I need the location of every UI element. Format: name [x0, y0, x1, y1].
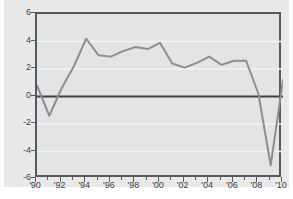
y-axis-tick-label: 6 [26, 8, 31, 17]
y-axis-tick-label: 2 [26, 63, 31, 72]
x-axis-tick-label: '02 [177, 181, 189, 190]
x-axis-minor-tick [195, 177, 196, 180]
x-axis-tick-label: '98 [128, 181, 140, 190]
x-axis-minor-tick [97, 177, 98, 180]
x-axis-tick-label: '10 [275, 181, 287, 190]
data-series-line [37, 39, 283, 166]
x-axis-tick-label: '90 [29, 181, 41, 190]
x-axis-tick-label: '08 [251, 181, 263, 190]
x-axis-minor-tick [170, 177, 171, 180]
x-axis-minor-tick [146, 177, 147, 180]
x-axis-tick-label: '00 [152, 181, 164, 190]
y-axis-tick-label: -4 [23, 145, 31, 154]
y-axis-tick-label: 4 [26, 35, 31, 44]
x-axis-minor-tick [121, 177, 122, 180]
plot-wrapper: 6420-2-4-6 '90'92'94'96'98'00'02'04'06'0… [35, 12, 281, 177]
y-axis-tick-label: 0 [26, 90, 31, 99]
x-axis-minor-tick [269, 177, 270, 180]
chart-figure: 6420-2-4-6 '90'92'94'96'98'00'02'04'06'0… [4, 0, 289, 187]
plot-area [35, 12, 281, 177]
y-axis-tick [31, 122, 35, 123]
x-axis-minor-tick [72, 177, 73, 180]
x-axis-tick-label: '96 [103, 181, 115, 190]
x-axis-minor-tick [220, 177, 221, 180]
x-axis-tick-label: '92 [54, 181, 66, 190]
x-axis-tick-label: '04 [201, 181, 213, 190]
x-axis-tick-label: '06 [226, 181, 238, 190]
line-chart-svg [37, 14, 283, 179]
y-axis-tick [31, 150, 35, 151]
y-axis-tick [31, 40, 35, 41]
y-axis-tick [31, 67, 35, 68]
y-axis-tick [31, 12, 35, 13]
x-axis-minor-tick [244, 177, 245, 180]
y-axis-tick-label: -2 [23, 118, 31, 127]
x-axis-minor-tick [47, 177, 48, 180]
x-axis-tick-label: '94 [78, 181, 90, 190]
y-axis-tick [31, 95, 35, 96]
